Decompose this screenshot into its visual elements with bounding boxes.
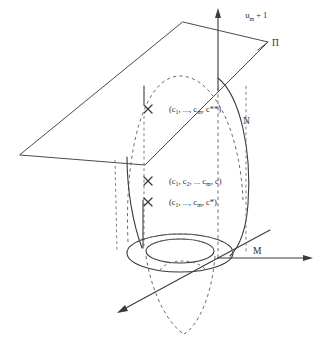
annulus-inner-back-arc xyxy=(146,239,214,251)
depth-axis-line xyxy=(124,258,218,309)
point-lower-part2: , ..., c xyxy=(178,197,197,207)
manifold-m-annulus xyxy=(127,234,233,272)
dashed-cone-below xyxy=(146,256,215,334)
annulus-outer-ellipse xyxy=(127,234,233,272)
surface-n-dome xyxy=(115,76,249,256)
manifold-m-label: M xyxy=(253,246,262,256)
surface-n-dashed-outline xyxy=(127,76,243,242)
surface-n-label: N xyxy=(243,116,250,126)
point-middle-part3: , ... c xyxy=(190,176,207,186)
plane-corner-edge xyxy=(258,42,268,50)
point-upper-part3: , c**) xyxy=(202,104,222,114)
point-middle-part4: , c) xyxy=(211,176,222,186)
figure-root: um + 1 П N M (c1, ..., cm, c**) (c1, c2,… xyxy=(0,0,327,352)
arrow-down-left-icon xyxy=(117,305,128,313)
point-lower-part3: , c*) xyxy=(202,197,217,207)
diagram-canvas: um + 1 П N M (c1, ..., cm, c**) (c1, c2,… xyxy=(0,0,327,352)
point-upper-label: (c1, ..., cm, c**) xyxy=(154,104,232,115)
depth-axis-back xyxy=(218,230,270,258)
point-upper-part2: , ..., c xyxy=(178,104,197,114)
point-middle-label: (c1, c2, ... cm, c) xyxy=(154,176,232,187)
marker-group xyxy=(144,105,152,206)
arrow-up-icon xyxy=(215,8,221,18)
svg-text:um + 1: um + 1 xyxy=(226,10,282,22)
surface-generator-left-dashed xyxy=(115,160,117,250)
arrow-right-icon xyxy=(303,255,313,261)
marker-point-middle xyxy=(144,177,152,185)
point-middle-part2: , c xyxy=(178,176,186,186)
marker-point-upper xyxy=(144,105,152,113)
vertical-axis-label: um + 1 xyxy=(226,10,282,22)
marker-point-lower xyxy=(144,198,152,206)
plane-pi-label: П xyxy=(272,38,279,48)
cone-left-edge xyxy=(146,256,184,334)
point-lower-label: (c1, ..., cm, c*) xyxy=(154,197,228,208)
axis-label-suffix: + 1 xyxy=(254,10,267,20)
surface-n-solid-left xyxy=(127,157,142,248)
